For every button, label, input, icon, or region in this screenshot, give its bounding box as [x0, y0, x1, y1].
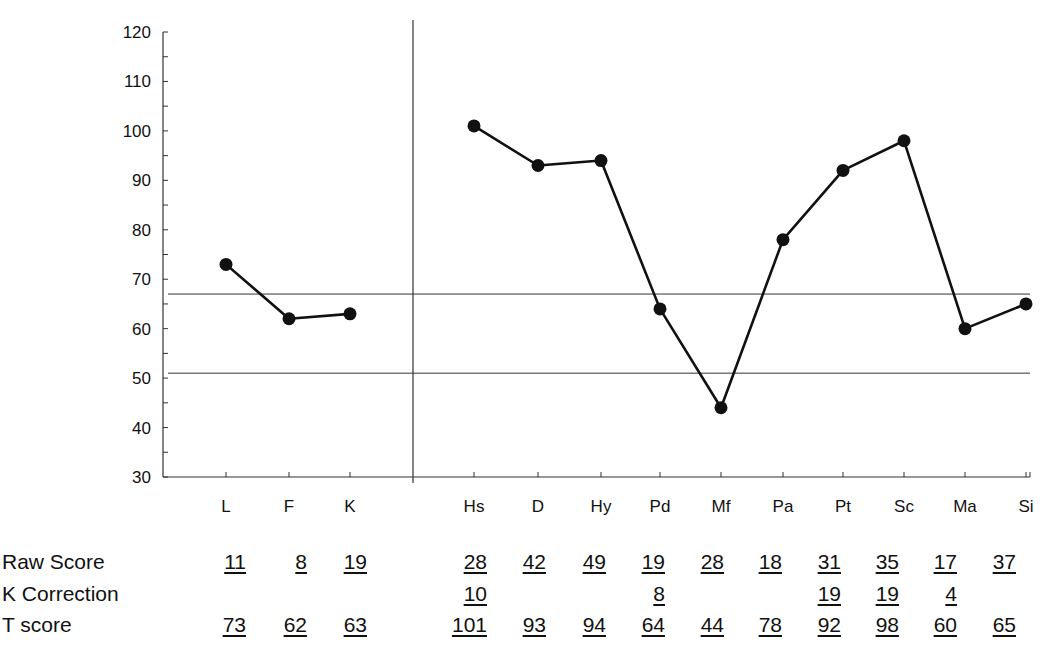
t-score-sc: 98 — [876, 613, 899, 637]
k-correction-row-label: K Correction — [2, 582, 119, 606]
raw-score-pa: 18 — [759, 550, 782, 574]
raw-score-sc: 35 — [876, 550, 899, 574]
x-tick-label-sc: Sc — [894, 497, 914, 516]
y-tick-label: 30 — [132, 468, 151, 487]
data-point-f — [283, 312, 296, 325]
k-correction-pt: 19 — [818, 582, 841, 606]
data-point-sc — [898, 134, 911, 147]
y-tick-label: 60 — [132, 320, 151, 339]
t-score-l: 73 — [223, 613, 246, 637]
raw-score-l: 11 — [224, 550, 246, 574]
raw-score-row-label: Raw Score — [2, 550, 105, 574]
raw-score-hs: 28 — [464, 550, 487, 574]
t-score-pd: 64 — [642, 613, 665, 637]
x-axis: LFKHsDHyPdMfPaPtScMaSi — [163, 20, 1034, 516]
data-point-mf — [715, 401, 728, 414]
raw-score-si: 37 — [993, 550, 1016, 574]
data-point-pd — [654, 302, 667, 315]
x-tick-label-k: K — [344, 497, 356, 516]
mmpi-profile-chart: 30405060708090100110120 LFKHsDHyPdMfPaPt… — [0, 0, 1048, 540]
raw-score-mf: 28 — [701, 550, 724, 574]
x-tick-label-mf: Mf — [712, 497, 731, 516]
data-point-hy — [595, 154, 608, 167]
t-score-pa: 78 — [759, 613, 782, 637]
x-tick-label-ma: Ma — [953, 497, 977, 516]
t-score-row-label: T score — [2, 613, 72, 637]
x-tick-label-f: F — [284, 497, 294, 516]
clinical-line — [474, 126, 1026, 408]
t-score-mf: 44 — [701, 613, 724, 637]
data-point-d — [532, 159, 545, 172]
x-tick-label-pd: Pd — [650, 497, 671, 516]
y-tick-label: 70 — [132, 270, 151, 289]
y-tick-label: 80 — [132, 221, 151, 240]
raw-score-d: 42 — [523, 550, 546, 574]
k-correction-sc: 19 — [876, 582, 899, 606]
t-score-ma: 60 — [934, 613, 957, 637]
y-tick-label: 120 — [123, 23, 151, 42]
data-point-k — [344, 307, 357, 320]
k-correction-hs: 10 — [464, 582, 487, 606]
x-tick-label-pt: Pt — [835, 497, 851, 516]
x-tick-label-d: D — [532, 497, 544, 516]
t-score-pt: 92 — [818, 613, 841, 637]
t-score-hy: 94 — [583, 613, 606, 637]
raw-score-k: 19 — [344, 550, 367, 574]
x-tick-label-hy: Hy — [591, 497, 612, 516]
data-point-l — [220, 258, 233, 271]
y-tick-label: 40 — [132, 419, 151, 438]
raw-score-hy: 49 — [583, 550, 606, 574]
data-point-si — [1020, 297, 1033, 310]
reference-lines — [168, 294, 1030, 373]
x-tick-label-hs: Hs — [464, 497, 485, 516]
t-score-d: 93 — [523, 613, 546, 637]
x-tick-label-l: L — [221, 497, 230, 516]
data-series — [220, 119, 1033, 414]
y-tick-label: 100 — [123, 122, 151, 141]
x-tick-label-si: Si — [1018, 497, 1033, 516]
t-score-si: 65 — [993, 613, 1016, 637]
data-point-ma — [959, 322, 972, 335]
y-tick-label: 50 — [132, 369, 151, 388]
y-tick-label: 110 — [124, 72, 151, 91]
data-point-hs — [468, 119, 481, 132]
y-tick-label: 90 — [132, 171, 151, 190]
raw-score-pt: 31 — [818, 550, 841, 574]
data-point-pt — [837, 164, 850, 177]
validity-line — [226, 264, 350, 318]
t-score-k: 63 — [344, 613, 367, 637]
raw-score-f: 8 — [295, 550, 307, 574]
t-score-hs: 101 — [452, 613, 487, 637]
t-score-f: 62 — [284, 613, 307, 637]
x-tick-label-pa: Pa — [773, 497, 794, 516]
k-correction-pd: 8 — [653, 582, 665, 606]
raw-score-pd: 19 — [642, 550, 665, 574]
raw-score-ma: 17 — [934, 550, 957, 574]
y-axis: 30405060708090100110120 — [123, 23, 168, 487]
k-correction-ma: 4 — [945, 582, 957, 606]
data-point-pa — [777, 233, 790, 246]
